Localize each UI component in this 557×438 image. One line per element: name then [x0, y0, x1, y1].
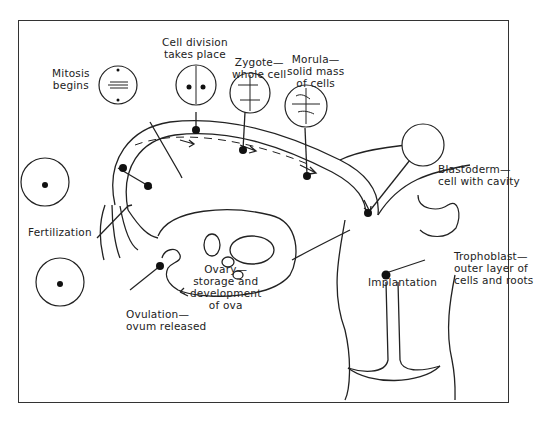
label-mitosis: Mitosis begins: [52, 67, 90, 91]
label-morula: Morula— solid mass of cells: [287, 53, 344, 89]
label-implantation: Implantation: [368, 276, 437, 288]
label-trophoblast: Trophoblast— outer layer of cells and ro…: [454, 250, 534, 286]
label-ovulation: Ovulation— ovum released: [126, 308, 206, 332]
label-fertilization: Fertilization: [28, 226, 92, 238]
label-cell-division: Cell division takes place: [162, 36, 228, 60]
blastoderm-icon: [402, 124, 444, 166]
label-zygote: Zygote— whole cell: [232, 56, 286, 80]
label-blastoderm: Blastoderm— cell with cavity: [438, 163, 520, 187]
label-ovary: Ovary— storage and development of ova: [190, 263, 261, 311]
